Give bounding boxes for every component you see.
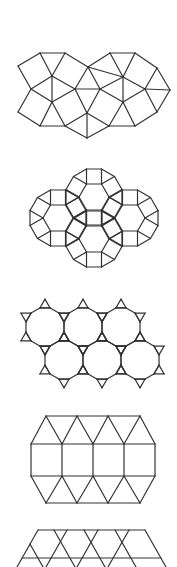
tile-edge: [17, 530, 38, 567]
tile-edge: [102, 211, 115, 219]
tile-edge: [30, 544, 43, 567]
tile-edge: [126, 374, 135, 379]
tile-edge: [69, 341, 78, 346]
tile-edge: [38, 198, 51, 206]
tile-edge: [45, 346, 50, 355]
tile-edge: [123, 53, 135, 77]
tile-edge: [40, 299, 45, 308]
tile-edge: [102, 177, 115, 185]
tile-edge: [73, 211, 86, 219]
tile-edge: [65, 126, 87, 138]
tile-edge: [66, 247, 74, 260]
tile-edge: [31, 89, 52, 102]
tile-edge: [159, 346, 164, 355]
tile-edge: [79, 197, 87, 210]
tile-edge: [18, 66, 31, 89]
tile-edge: [115, 205, 123, 218]
tile-edge: [66, 238, 79, 246]
tile-edge: [66, 205, 74, 218]
tile-edge: [74, 219, 87, 227]
tile-edge: [31, 416, 46, 444]
tile-edge: [87, 89, 100, 113]
tile-edge: [62, 476, 77, 503]
tile-edge: [97, 332, 102, 341]
tile-edge: [135, 112, 157, 126]
tile-edge: [102, 379, 107, 388]
tile-edge: [88, 308, 97, 313]
tile-edge: [145, 218, 158, 226]
tile-edge: [107, 374, 116, 379]
tile-edge: [78, 198, 86, 211]
tile-edge: [102, 226, 110, 239]
tile-edge: [77, 476, 93, 503]
tile-edge: [138, 231, 151, 239]
tile-edge: [123, 89, 145, 102]
tile-edge: [140, 332, 145, 341]
tile-edge: [109, 232, 122, 240]
tile-edge: [79, 239, 87, 252]
tile-edge: [66, 218, 74, 231]
tile-edge: [62, 416, 77, 444]
tile-edge: [102, 313, 107, 322]
tile-edge: [79, 184, 87, 197]
snub-square-tiling-figure: [18, 53, 170, 138]
tile-edge: [74, 211, 87, 219]
tile-edge: [46, 476, 62, 503]
tile-edge: [50, 374, 59, 379]
tile-edge: [121, 346, 126, 355]
tile-edge: [30, 218, 43, 226]
tile-edge: [150, 198, 158, 211]
tile-edge: [102, 184, 110, 197]
tile-edge: [107, 341, 116, 346]
tile-edge: [145, 211, 158, 219]
tile-edge: [45, 299, 50, 308]
tile-edge: [43, 205, 51, 218]
tile-edge: [40, 365, 45, 374]
tile-edge: [78, 299, 83, 308]
trihexagonal-tiling-figure: [17, 530, 166, 567]
tile-edge: [154, 365, 159, 374]
tile-edge: [121, 299, 126, 308]
tile-edge: [123, 77, 145, 89]
rhombitrihexagonal-tiling-figure: [30, 169, 158, 267]
tile-edge: [102, 219, 115, 227]
tile-edge: [145, 530, 166, 567]
tile-edge: [114, 219, 122, 232]
tile-edge: [100, 77, 123, 89]
tile-edge: [64, 379, 69, 388]
tile-edge: [65, 53, 88, 67]
tile-edge: [126, 341, 135, 346]
tile-edge: [145, 89, 157, 112]
tile-edge: [126, 308, 135, 313]
tile-edge: [40, 346, 45, 355]
tile-edge: [74, 169, 87, 177]
tile-edge: [109, 190, 122, 198]
tile-edge: [31, 308, 40, 313]
tile-edge: [69, 374, 78, 379]
tile-edge: [121, 365, 126, 374]
tile-edge: [116, 346, 121, 355]
tile-edge: [74, 252, 87, 259]
tile-edge: [50, 341, 59, 346]
tile-edge: [114, 177, 122, 190]
tile-edge: [93, 476, 108, 503]
tile-edge: [40, 102, 52, 126]
elongated-triangular-tiling-figure: [31, 416, 155, 503]
tile-edge: [87, 113, 109, 126]
tile-edge: [159, 365, 164, 374]
tile-edge: [102, 217, 115, 225]
tile-edge: [115, 218, 123, 231]
tile-edge: [88, 374, 97, 379]
tile-edge: [52, 53, 65, 76]
tile-edge: [87, 126, 109, 138]
tile-edge: [78, 226, 86, 239]
tile-edge: [18, 89, 31, 112]
tile-edge: [116, 365, 121, 374]
tile-edge: [102, 198, 110, 211]
tile-edge: [66, 205, 74, 218]
tile-edge: [124, 416, 140, 444]
tile-edge: [102, 239, 110, 252]
tile-edge: [88, 341, 97, 346]
tile-edge: [135, 379, 140, 388]
tile-edge: [135, 53, 157, 68]
